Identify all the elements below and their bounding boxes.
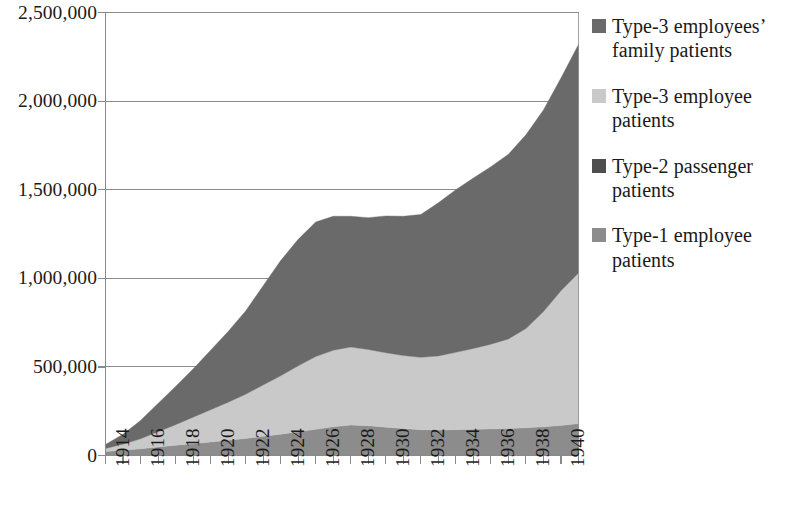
x-axis-tick-label: 1926 bbox=[323, 428, 342, 467]
legend-item: Type-3 employees’ family patients bbox=[592, 14, 803, 63]
x-axis-tick-label: 1924 bbox=[288, 428, 307, 467]
x-axis-tick-label: 1938 bbox=[533, 428, 552, 467]
stacked-area-chart-figure: 2,500,0002,000,0001,500,0001,000,000500,… bbox=[0, 0, 803, 522]
legend-item-label: Type-3 employee patients bbox=[612, 84, 803, 133]
x-axis-tick-label: 1936 bbox=[498, 428, 517, 467]
legend-item: Type-2 passenger patients bbox=[592, 154, 803, 203]
legend-swatch-type3-family-icon bbox=[592, 19, 606, 33]
x-axis-tick-label: 1930 bbox=[393, 428, 412, 467]
legend-swatch-type1-employee-icon bbox=[592, 228, 606, 242]
x-axis-tick-label: 1922 bbox=[253, 428, 272, 467]
legend-swatch-type3-employee-icon bbox=[592, 89, 606, 103]
x-axis-tick-label: 1914 bbox=[113, 428, 132, 467]
x-axis-tick-label: 1928 bbox=[358, 428, 377, 467]
x-axis-tick-label: 1932 bbox=[428, 428, 447, 467]
x-axis-tick-label: 1916 bbox=[148, 428, 167, 467]
x-axis-tick-label: 1918 bbox=[183, 428, 202, 467]
legend-item-label: Type-2 passenger patients bbox=[612, 154, 803, 203]
x-axis-tick-labels: 1914191619181920192219241926192819301932… bbox=[0, 0, 600, 522]
x-axis-tick-label: 1934 bbox=[463, 428, 482, 467]
plot-area: 2,500,0002,000,0001,500,0001,000,000500,… bbox=[0, 0, 600, 522]
legend-swatch-type2-passenger-icon bbox=[592, 159, 606, 173]
legend-item-label: Type-3 employees’ family patients bbox=[612, 14, 803, 63]
chart-legend: Type-3 employees’ family patientsType-3 … bbox=[592, 14, 803, 293]
legend-item-label: Type-1 employee patients bbox=[612, 223, 803, 272]
x-axis-tick-label: 1940 bbox=[568, 428, 587, 467]
legend-item: Type-3 employee patients bbox=[592, 84, 803, 133]
legend-item: Type-1 employee patients bbox=[592, 223, 803, 272]
x-axis-tick-label: 1920 bbox=[218, 428, 237, 467]
